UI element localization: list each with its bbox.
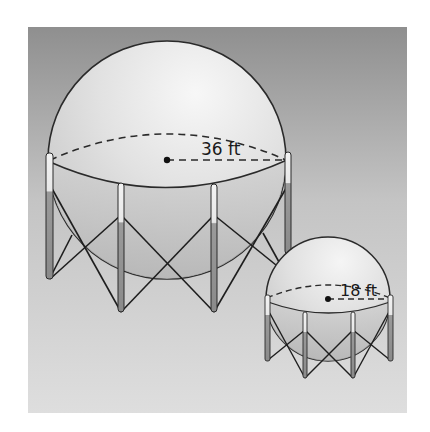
large-radius-label: 36 ft (201, 139, 241, 159)
large-leg-3 (211, 184, 217, 312)
small-leg-4 (388, 295, 393, 361)
small-leg-2 (303, 312, 307, 378)
large-leg-2 (118, 183, 124, 312)
large-center-dot (164, 157, 170, 163)
small-leg-3 (351, 312, 355, 378)
small-leg-1 (265, 295, 270, 361)
small-radius-label: 18 ft (340, 281, 377, 300)
large-leg-4 (285, 152, 291, 254)
large-leg-1 (46, 153, 53, 279)
small-center-dot (325, 296, 331, 302)
tanks-diagram: 36 ft 18 ft (0, 0, 430, 432)
